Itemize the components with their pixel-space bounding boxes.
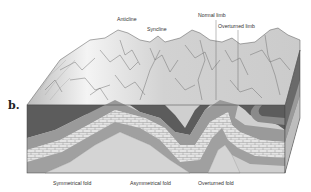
anticline-label: Anticline <box>117 16 137 22</box>
symmetrical-fold-label: Symmetrical fold <box>53 180 91 186</box>
front-face-strata <box>27 100 285 173</box>
terrain-surface <box>27 28 300 106</box>
overturned-limb-label: Overturned limb <box>218 23 255 29</box>
asymmetrical-fold-label: Asymmetrical fold <box>130 180 171 186</box>
normal-limb-label: Normal limb <box>198 12 226 18</box>
syncline-label: Syncline <box>147 26 167 32</box>
overturned-fold-label: Overturned fold <box>198 180 234 186</box>
panel-label: b. <box>8 99 20 112</box>
